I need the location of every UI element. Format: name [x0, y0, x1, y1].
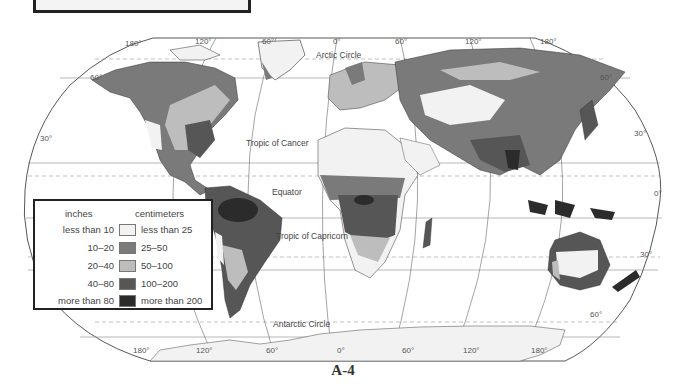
svg-text:30°: 30°	[40, 134, 52, 143]
legend-item: less than 10 less than 25	[35, 223, 211, 237]
legend-item: 20–40 50–100	[35, 259, 211, 273]
legend-item: 10–20 25–50	[35, 241, 211, 255]
svg-text:180°: 180°	[125, 39, 142, 48]
svg-text:0°: 0°	[337, 346, 345, 355]
legend-swatch	[119, 224, 136, 236]
svg-text:180°: 180°	[133, 346, 150, 355]
legend-swatch	[119, 278, 136, 290]
svg-text:180°: 180°	[531, 346, 548, 355]
svg-text:30°: 30°	[634, 129, 646, 138]
svg-text:60°: 60°	[600, 73, 612, 82]
svg-text:0°: 0°	[654, 189, 662, 198]
svg-text:60°: 60°	[90, 73, 102, 82]
svg-text:60°: 60°	[262, 37, 274, 46]
tropic-of-cancer-label: Tropic of Cancer	[246, 138, 309, 148]
svg-text:0°: 0°	[333, 37, 341, 46]
legend: inches centimeters less than 10 less tha…	[33, 199, 213, 310]
arctic-circle-label: Arctic Circle	[316, 50, 362, 60]
legend-swatch	[119, 242, 136, 254]
legend-item: more than 80 more than 200	[35, 294, 211, 308]
svg-text:60°: 60°	[395, 37, 407, 46]
svg-text:60°: 60°	[402, 346, 414, 355]
equator-label: Equator	[272, 187, 302, 197]
tropic-of-capricorn-label: Tropic of Capricorn	[276, 231, 348, 241]
svg-text:120°: 120°	[465, 37, 482, 46]
legend-header-inches: inches	[65, 208, 92, 219]
svg-text:120°: 120°	[196, 346, 213, 355]
legend-header-centimeters: centimeters	[135, 208, 184, 219]
svg-text:60°: 60°	[266, 346, 278, 355]
antarctic-circle-label: Antarctic Circle	[273, 319, 330, 329]
world-precipitation-map: 180° 120° 60° 0° 60° 120° 180° 180° 120°…	[0, 0, 686, 391]
svg-text:120°: 120°	[195, 37, 212, 46]
legend-item: 40–80 100–200	[35, 277, 211, 291]
svg-text:180°: 180°	[540, 37, 557, 46]
legend-swatch	[119, 295, 136, 307]
svg-text:120°: 120°	[463, 346, 480, 355]
svg-text:60°: 60°	[590, 310, 602, 319]
legend-swatch	[119, 260, 136, 272]
svg-text:30°: 30°	[640, 250, 652, 259]
figure-caption: A-4	[0, 362, 686, 379]
